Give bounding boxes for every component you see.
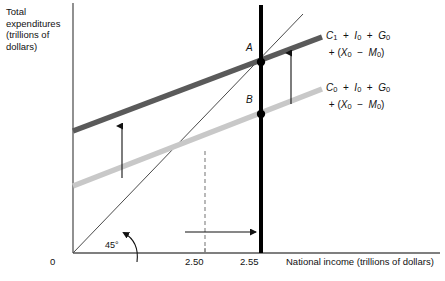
point-b-marker bbox=[257, 110, 265, 118]
x-axis-title: National income (trillions of dollars) bbox=[286, 256, 434, 267]
eq-bot-c-sub: 0 bbox=[333, 85, 337, 94]
eq-top-g: G bbox=[378, 30, 386, 41]
y-axis-title: Total expenditures (trillions of dollars… bbox=[6, 6, 60, 52]
expenditure-line-low bbox=[73, 89, 322, 186]
eq-bot-m: M bbox=[369, 99, 377, 110]
y-axis-title-line3: (trillions of bbox=[6, 29, 60, 41]
expenditure-line-high bbox=[73, 37, 322, 131]
series-label-high-line1: C1 + I0 + G0 bbox=[326, 28, 390, 45]
series-label-low: C0 + I0 + G0 + (X0 − M0) bbox=[326, 80, 390, 115]
eq-bot-x-sub: 0 bbox=[347, 103, 351, 112]
eq-top-i-sub: 0 bbox=[357, 33, 361, 42]
eq-bot-i-sub: 0 bbox=[357, 85, 361, 94]
eq-top-x-sub: 0 bbox=[347, 51, 351, 60]
y-axis-title-line4: dollars) bbox=[6, 41, 60, 53]
series-label-high: C1 + I0 + G0 + (X0 − M0) bbox=[326, 28, 390, 63]
forty-five-degree-line bbox=[73, 14, 303, 253]
x-tick-label-0: 0 bbox=[50, 256, 55, 267]
point-a-marker bbox=[257, 58, 265, 66]
angle-pointer-arrow bbox=[124, 233, 137, 262]
eq-bot-g-sub: 0 bbox=[386, 85, 390, 94]
series-label-low-line2: + (X0 − M0) bbox=[326, 97, 390, 114]
eq-top-c-sub: 1 bbox=[333, 33, 337, 42]
angle-label: 45° bbox=[105, 240, 119, 250]
x-tick-label-255: 2.55 bbox=[240, 256, 259, 267]
point-b-label: B bbox=[246, 94, 253, 105]
eq-top-m-sub: 0 bbox=[377, 51, 381, 60]
point-a-label: A bbox=[246, 42, 253, 53]
eq-bot-g: G bbox=[378, 82, 386, 93]
eq-top-g-sub: 0 bbox=[386, 33, 390, 42]
y-axis-title-line1: Total bbox=[6, 6, 60, 18]
series-label-high-line2: + (X0 − M0) bbox=[326, 45, 390, 62]
series-label-low-line1: C0 + I0 + G0 bbox=[326, 80, 390, 97]
y-axis-title-line2: expenditures bbox=[6, 18, 60, 30]
x-tick-label-250: 2.50 bbox=[185, 256, 204, 267]
eq-bot-m-sub: 0 bbox=[377, 103, 381, 112]
expenditure-income-chart: Total expenditures (trillions of dollars… bbox=[0, 0, 445, 281]
eq-top-m: M bbox=[369, 47, 377, 58]
